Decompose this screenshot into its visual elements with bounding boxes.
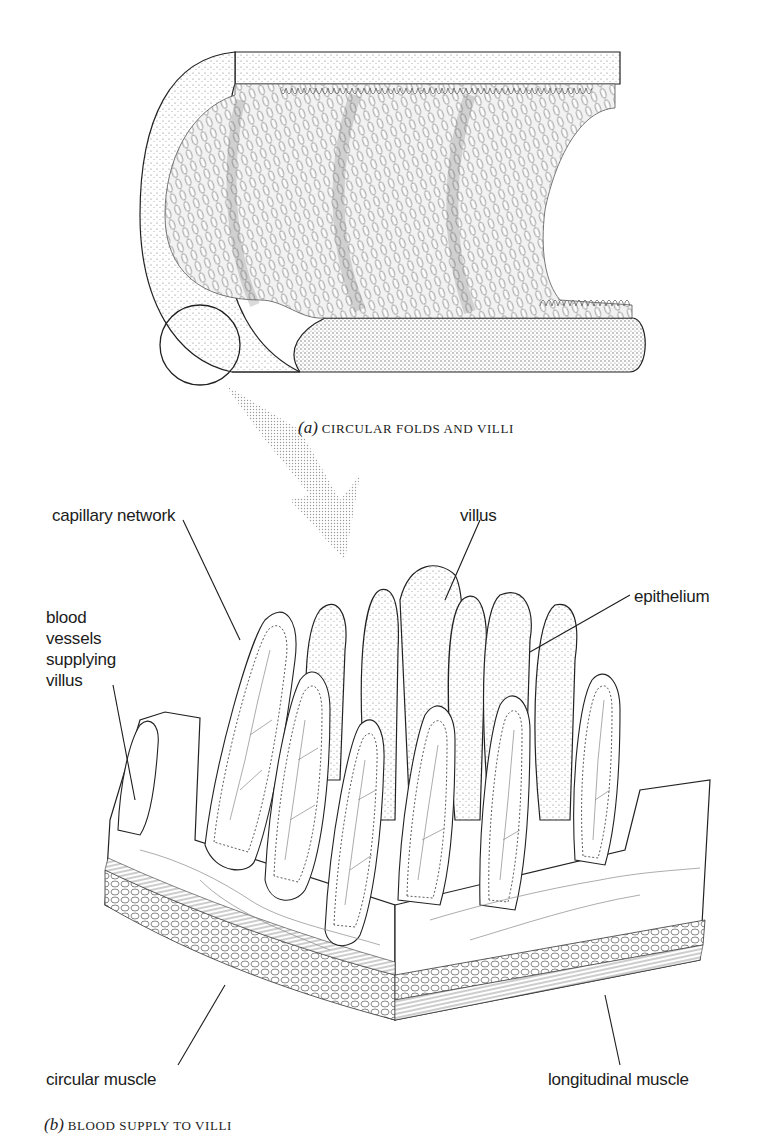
label-epithelium: epithelium [634,586,710,607]
panel-letter: (a) [298,418,318,437]
panel-letter: (b) [44,1115,64,1134]
label-line: villus [46,670,156,691]
villi-block [105,566,710,1020]
zoom-arrow [225,385,360,560]
illustration [0,0,779,1145]
label-line: vessels [46,628,156,649]
intestine-cross-section [140,52,645,385]
label-circular-muscle: circular muscle [46,1069,156,1090]
caption-panel-a: (a) CIRCULAR FOLDS AND VILLI [298,418,514,438]
label-blood-vessels-supplying-villus: blood vessels supplying villus [46,607,156,691]
label-capillary-network: capillary network [52,505,175,526]
panel-caption: CIRCULAR FOLDS AND VILLI [322,421,514,436]
label-line: supplying [46,649,156,670]
label-villus: villus [460,505,497,526]
caption-panel-b: (b) BLOOD SUPPLY TO VILLI [44,1115,232,1135]
label-line: blood [46,607,156,628]
label-longitudinal-muscle: longitudinal muscle [548,1069,689,1090]
panel-caption: BLOOD SUPPLY TO VILLI [68,1118,232,1133]
